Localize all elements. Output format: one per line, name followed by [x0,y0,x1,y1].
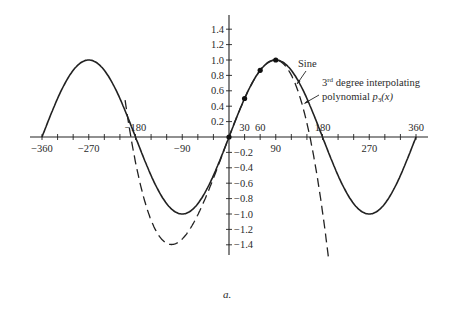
y-tick-label: 0.4 [211,101,225,112]
x-tick-label: 60 [255,122,266,133]
x-tick-label: 270 [361,143,377,154]
y-tick-label: −1.4 [234,239,254,250]
y-tick-label: 1.4 [211,24,225,35]
y-tick-label: 0.8 [211,70,224,81]
sine-label: Sine [298,58,317,69]
polynomial-label-line1: 3rd degree interpolating [322,76,421,88]
interpolation-point [258,68,263,73]
interpolation-point [242,96,247,101]
y-tick-label: −0.8 [234,193,253,204]
y-tick-label: −0.2 [234,147,253,158]
x-tick-label: −270 [78,143,100,154]
polynomial-label-line2: polynomial p3(x) [322,91,393,104]
y-tick-label: −1.0 [234,209,253,220]
x-tick-label: −180 [125,122,147,133]
interpolation-point [273,57,278,62]
y-tick-label: 0.6 [211,85,224,96]
polynomial-arrowhead-icon [304,100,309,104]
chart-canvas: −360−270−180−903060901802703601.41.21.00… [0,0,449,311]
y-tick-label: 0.2 [211,116,224,127]
x-tick-label: 90 [271,143,282,154]
x-tick-label: −90 [174,143,190,154]
y-tick-label: −0.4 [234,162,254,173]
y-tick-label: 1.0 [211,55,224,66]
interpolation-point [226,134,231,139]
x-tick-label: −360 [31,143,53,154]
y-tick-label: −0.6 [234,178,253,189]
x-tick-label: 360 [408,122,424,133]
figure-caption: a. [223,288,231,300]
interpolation-points [226,57,278,139]
y-tick-label: 1.2 [211,39,224,50]
y-tick-label: −1.2 [234,224,253,235]
x-tick-label: 30 [239,122,250,133]
polynomial-curve [125,60,328,258]
